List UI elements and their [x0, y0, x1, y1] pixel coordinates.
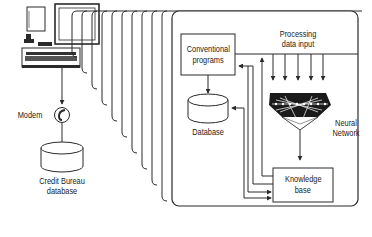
- processing-label-line2: data input: [273, 39, 322, 49]
- conventional-programs-label: Conventional programs: [181, 34, 235, 75]
- database-label: Database: [188, 127, 229, 137]
- modem-label: Modem: [14, 110, 47, 120]
- processing-label-line1: Processing: [273, 29, 322, 39]
- credit-bureau-label-line2: database: [29, 186, 95, 196]
- neural-network-label-line2: Network: [330, 128, 363, 138]
- database-cylinder-icon: [188, 94, 228, 123]
- database-cylinder-icon: [41, 142, 83, 172]
- knowledge-base-label: Knowledge base: [273, 168, 333, 202]
- telephone-icon: [55, 108, 70, 123]
- credit-bureau-label-line1: Credit Bureau: [29, 176, 95, 186]
- diagram-canvas: Modem Credit Bureau database Conventiona…: [0, 0, 372, 237]
- neural-network-label-line1: Neural: [330, 118, 363, 128]
- computer-terminal-icon: [22, 4, 99, 68]
